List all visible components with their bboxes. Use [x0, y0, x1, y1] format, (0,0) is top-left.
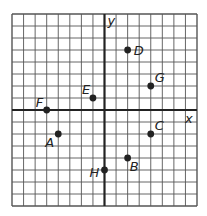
point-marker — [147, 83, 154, 90]
point-marker — [101, 167, 108, 174]
point-label: E — [82, 82, 91, 97]
coordinate-grid: x y ABCDEFGH — [0, 0, 207, 216]
point-marker — [43, 107, 50, 114]
point-label: B — [130, 159, 139, 174]
point-label: D — [134, 43, 144, 58]
point-marker — [124, 47, 131, 54]
x-axis-label: x — [184, 111, 193, 126]
point-marker — [147, 131, 154, 138]
point-E: E — [82, 82, 96, 101]
axes — [12, 14, 197, 206]
point-label: G — [155, 70, 165, 85]
point-marker — [55, 131, 62, 138]
point-marker — [90, 95, 97, 102]
point-B: B — [124, 155, 138, 174]
plotted-points: ABCDEFGH — [36, 43, 165, 180]
point-label: A — [44, 135, 54, 150]
point-label: H — [90, 165, 100, 180]
point-label: C — [155, 118, 165, 133]
y-axis-label: y — [107, 13, 116, 28]
point-label: F — [36, 95, 44, 110]
point-D: D — [124, 43, 143, 58]
